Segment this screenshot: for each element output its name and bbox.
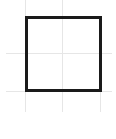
square-shape xyxy=(25,16,102,92)
